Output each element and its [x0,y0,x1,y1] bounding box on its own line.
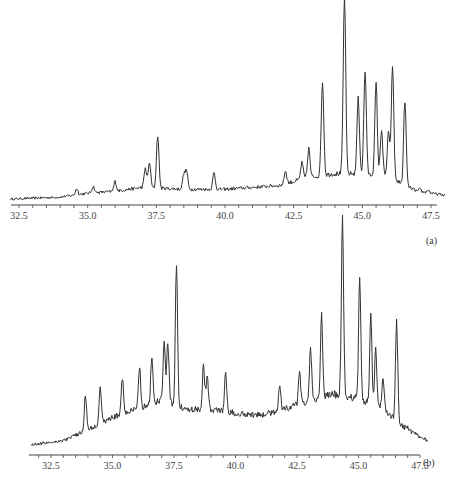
panel-label-b: (b) [423,457,435,469]
x-tick-label: 35.0 [79,210,97,221]
chromatogram-panel-b: 32.535.037.540.042.545.047.5 (b) [29,215,435,471]
x-tick-label: 42.5 [288,460,306,471]
x-tick-label: 35.0 [104,460,122,471]
x-axis-ticks-a: 32.535.037.540.042.545.047.5 [10,205,440,221]
x-tick-label: 37.5 [148,210,166,221]
panel-label-a: (a) [426,235,437,247]
x-tick-label: 42.5 [285,210,303,221]
x-tick-label: 40.0 [216,210,234,221]
x-tick-label: 37.5 [165,460,183,471]
x-tick-label: 47.5 [422,210,440,221]
chromatogram-trace-a [11,0,445,200]
x-tick-label: 45.0 [354,210,372,221]
x-axis-ticks-b: 32.535.037.540.042.545.047.5 [39,455,429,471]
chromatogram-trace-b [31,215,427,445]
x-tick-label: 32.5 [10,210,28,221]
chromatogram-panel-a: 32.535.037.540.042.545.047.5 (a) [10,0,444,247]
x-tick-label: 40.0 [227,460,245,471]
x-tick-label: 45.0 [350,460,368,471]
figure-canvas: 32.535.037.540.042.545.047.5 (a) 32.535.… [0,0,450,489]
x-tick-label: 32.5 [42,460,60,471]
